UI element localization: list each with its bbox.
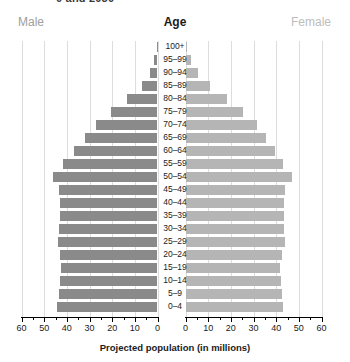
- age-group-label: 75–79: [0, 105, 350, 118]
- x-axis-label: Projected population (in millions): [0, 342, 350, 353]
- age-group-label: 55–59: [0, 157, 350, 170]
- age-group-label: 70–74: [0, 118, 350, 131]
- age-group-label: 0–4: [0, 300, 350, 313]
- tick-label: 60: [16, 323, 26, 333]
- tick-major: [67, 317, 68, 322]
- tick-minor: [124, 317, 125, 320]
- tick-minor: [265, 317, 266, 320]
- tick-major: [90, 317, 91, 322]
- bar-rows: 100+95–9990–9485–8980–8475–7970–7465–696…: [0, 41, 350, 317]
- chart-header: Male Age Female: [0, 15, 350, 31]
- tick-minor: [146, 317, 147, 320]
- tick-minor: [197, 317, 198, 320]
- age-group-label: 40–44: [0, 196, 350, 209]
- tick-label: 50: [39, 323, 49, 333]
- age-group-label: 45–49: [0, 183, 350, 196]
- tick-label: 60: [316, 323, 326, 333]
- tick-major: [186, 317, 187, 322]
- tick-major: [322, 317, 323, 322]
- age-group-label: 90–94: [0, 66, 350, 79]
- tick-label: 10: [130, 323, 140, 333]
- tick-major: [112, 317, 113, 322]
- population-pyramid-plot: 100+95–9990–9485–8980–8475–7970–7465–696…: [0, 41, 350, 317]
- tick-major: [135, 317, 136, 322]
- tick-label: 50: [294, 323, 304, 333]
- tick-minor: [242, 317, 243, 320]
- pyramid-row: 0–4: [0, 301, 350, 314]
- tick-label: 10: [203, 323, 213, 333]
- age-group-label: 95–99: [0, 53, 350, 66]
- tick-label: 40: [62, 323, 72, 333]
- tick-label: 40: [271, 323, 281, 333]
- age-group-label: 50–54: [0, 170, 350, 183]
- age-group-label: 65–69: [0, 131, 350, 144]
- tick-major: [231, 317, 232, 322]
- tick-label: 20: [226, 323, 236, 333]
- legend-label-female: Female: [291, 15, 331, 29]
- age-group-label: 60–64: [0, 144, 350, 157]
- tick-major: [276, 317, 277, 322]
- age-group-label: 10–14: [0, 274, 350, 287]
- age-group-label: 15–19: [0, 261, 350, 274]
- age-group-label: 25–29: [0, 235, 350, 248]
- tick-label: 20: [107, 323, 117, 333]
- tick-major: [44, 317, 45, 322]
- chart-title-clipped: 0 and 2050: [56, 0, 114, 4]
- age-group-label: 100+: [0, 40, 350, 53]
- tick-major: [254, 317, 255, 322]
- age-group-label: 80–84: [0, 92, 350, 105]
- tick-major: [158, 317, 159, 322]
- age-group-label: 5–9: [0, 287, 350, 300]
- tick-minor: [101, 317, 102, 320]
- tick-label: 30: [84, 323, 94, 333]
- age-group-label: 85–89: [0, 79, 350, 92]
- tick-major: [299, 317, 300, 322]
- tick-minor: [220, 317, 221, 320]
- tick-minor: [33, 317, 34, 320]
- tick-label: 30: [248, 323, 258, 333]
- tick-minor: [78, 317, 79, 320]
- tick-minor: [56, 317, 57, 320]
- tick-minor: [288, 317, 289, 320]
- age-group-label: 35–39: [0, 209, 350, 222]
- age-group-label: 30–34: [0, 222, 350, 235]
- tick-major: [22, 317, 23, 322]
- tick-minor: [310, 317, 311, 320]
- tick-major: [208, 317, 209, 322]
- tick-label: 0: [183, 323, 188, 333]
- tick-label: 0: [155, 323, 160, 333]
- age-group-label: 20–24: [0, 248, 350, 261]
